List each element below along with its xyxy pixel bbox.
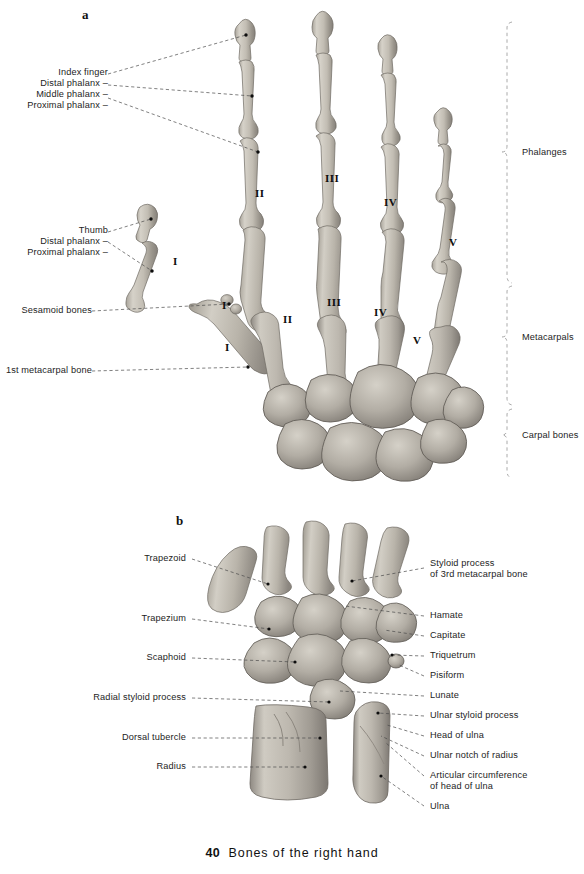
sesamoid-bone-2 (230, 304, 241, 314)
label-styloid-process-3rd-metacarpal-line1: Styloid process (430, 558, 495, 569)
label-sesamoid-bones: Sesamoid bones (0, 305, 92, 316)
label-hamate: Hamate (430, 610, 463, 621)
label-thumb-distal-phalanx: Distal phalanx – (0, 236, 108, 247)
label-ulna: Ulna (430, 801, 450, 812)
bone-ring-finger (378, 35, 404, 334)
numeral-metacarpal-iv: IV (374, 306, 387, 318)
label-index-middle-phalanx: Middle phalanx – (0, 89, 108, 100)
label-articular-circumference-line1: Articular circumference (430, 770, 527, 781)
bracket-label-phalanges: Phalanges (522, 147, 567, 157)
numeral-thumb-proximal: I (173, 255, 178, 267)
label-radial-styloid-process: Radial styloid process (40, 692, 186, 703)
label-pisiform: Pisiform (430, 670, 464, 681)
label-ulnar-styloid-process: Ulnar styloid process (430, 710, 518, 721)
panel-b-first-metacarpal (208, 546, 257, 612)
numeral-metacarpal-i: I (225, 341, 230, 353)
figure-bones-of-right-hand: a b Index finger Distal phalanx – Middle… (0, 0, 584, 874)
panel-b-metacarpal-bases (262, 521, 409, 598)
numeral-metacarpal-iii: III (327, 296, 341, 308)
panel-b-distal-carpal-row (255, 594, 417, 644)
label-trapezoid: Trapezoid (40, 553, 186, 564)
label-articular-circumference-line2: of head of ulna (430, 781, 493, 792)
label-thumb-proximal-phalanx: Proximal phalanx – (0, 247, 108, 258)
label-index-finger: Index finger (0, 67, 108, 78)
label-thumb: Thumb (0, 225, 108, 236)
label-head-of-ulna: Head of ulna (430, 730, 484, 741)
label-index-distal-phalanx: Distal phalanx – (0, 78, 108, 89)
bones-carpals (263, 364, 483, 481)
label-scaphoid: Scaphoid (40, 652, 186, 663)
numeral-phalanx-iv: IV (384, 196, 397, 208)
label-triquetrum: Triquetrum (430, 650, 476, 661)
label-lunate: Lunate (430, 690, 459, 701)
numeral-metacarpal-i-upper: I (222, 299, 227, 311)
label-ulnar-notch-of-radius: Ulnar notch of radius (430, 750, 518, 761)
panel-b-letter: b (176, 513, 183, 529)
label-radius: Radius (40, 761, 186, 772)
label-1st-metacarpal-bone: 1st metacarpal bone (0, 365, 92, 376)
panel-b-ulna (353, 702, 390, 803)
label-capitate: Capitate (430, 630, 465, 641)
figure-caption-text: Bones of the right hand (229, 846, 379, 860)
panel-b-radius (250, 705, 328, 800)
panel-a-brackets (502, 22, 512, 478)
numeral-metacarpal-ii: II (283, 313, 293, 325)
label-index-proximal-phalanx: Proximal phalanx – (0, 100, 108, 111)
label-dorsal-tubercle: Dorsal tubercle (40, 732, 186, 743)
anatomical-illustration (0, 0, 584, 874)
panel-a-letter: a (82, 7, 89, 23)
label-styloid-process-3rd-metacarpal-line2: of 3rd metacarpal bone (430, 569, 528, 580)
numeral-phalanx-v: V (449, 236, 457, 248)
numeral-phalanx-iii: III (325, 172, 339, 184)
bone-index-finger (235, 19, 273, 332)
bracket-label-metacarpals: Metacarpals (522, 332, 574, 342)
panel-b-wrist-skeleton (192, 521, 424, 806)
bracket-label-carpal-bones: Carpal bones (522, 430, 578, 440)
figure-caption: 40 Bones of the right hand (0, 846, 584, 860)
figure-caption-number: 40 (205, 846, 219, 860)
numeral-phalanx-ii: II (255, 187, 265, 199)
bone-little-finger (432, 108, 462, 356)
label-trapezium: Trapezium (40, 613, 186, 624)
numeral-metacarpal-v: V (413, 334, 421, 346)
